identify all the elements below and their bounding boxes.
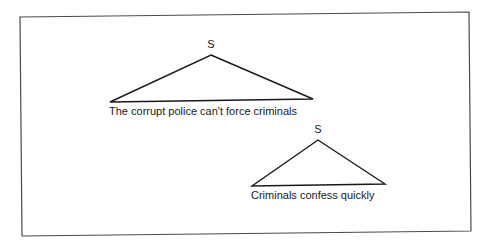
tree-2-node-label: S bbox=[314, 123, 321, 135]
tree-2-triangle bbox=[252, 140, 385, 186]
tree-1-node-label: S bbox=[207, 38, 214, 50]
tree-1-leaf-text: The corrupt police can't force criminals bbox=[109, 105, 297, 117]
diagram-frame bbox=[20, 12, 471, 236]
tree-1-triangle bbox=[110, 55, 313, 102]
tree-2-leaf-text: Criminals confess quickly bbox=[251, 189, 375, 201]
frame-border bbox=[20, 12, 471, 236]
tree-1: S The corrupt police can't force crimina… bbox=[109, 38, 313, 117]
diagram-canvas: S The corrupt police can't force crimina… bbox=[0, 0, 492, 244]
tree-2: S Criminals confess quickly bbox=[251, 123, 385, 201]
